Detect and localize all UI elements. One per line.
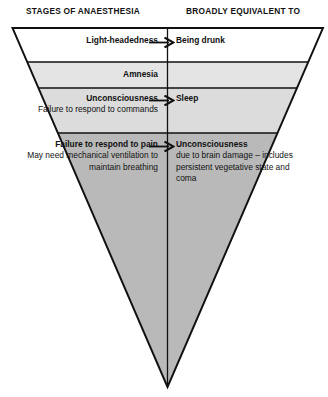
funnel-bands <box>0 0 328 397</box>
arrow-icon-band-4 <box>149 141 175 152</box>
band-2-fill <box>0 62 328 88</box>
arrow-icon-band-3 <box>149 95 175 106</box>
funnel-diagram <box>0 0 328 397</box>
band-4-fill <box>0 133 328 397</box>
arrow-icon-band-1 <box>149 37 175 48</box>
anaesthesia-stages-figure: STAGES OF ANAESTHESIA BROADLY EQUIVALENT… <box>0 0 328 397</box>
band-1-fill <box>0 0 328 62</box>
